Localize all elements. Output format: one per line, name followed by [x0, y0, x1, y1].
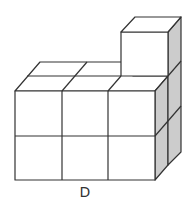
right-side-back	[168, 17, 181, 165]
figure-label: D	[0, 184, 170, 200]
cube-stack-diagram	[0, 0, 193, 209]
tall-cube-front	[121, 32, 168, 76]
